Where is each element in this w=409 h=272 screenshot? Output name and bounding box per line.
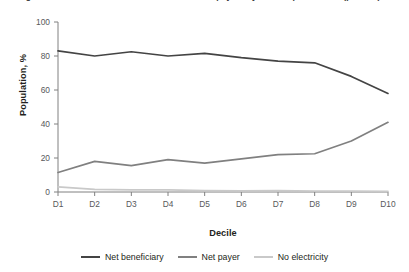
x-tick-label: D10 xyxy=(380,199,396,209)
legend-label: Net payer xyxy=(202,252,240,262)
legend-swatch-icon xyxy=(81,256,100,258)
legend-entry[interactable]: Net beneficiary xyxy=(81,252,164,262)
x-tick-label: D5 xyxy=(199,199,210,209)
data-series-group xyxy=(58,51,388,191)
x-tick-label: D4 xyxy=(163,199,174,209)
x-tick-label: D3 xyxy=(126,199,137,209)
x-tick-label: D9 xyxy=(346,199,357,209)
legend-entry[interactable]: Net payer xyxy=(178,252,240,262)
y-tick-label: 40 xyxy=(41,119,51,129)
plot-area: 020406080100 D1D2D3D4D5D6D7D8D9D10 xyxy=(0,0,409,272)
x-tick-label: D7 xyxy=(273,199,284,209)
chart-legend: Net beneficiaryNet payerNo electricity xyxy=(0,248,409,266)
y-tick-label: 0 xyxy=(45,187,50,197)
legend-swatch-icon xyxy=(178,256,197,258)
y-axis-ticks: 020406080100 xyxy=(36,17,58,197)
chart-figure: Figure: Distribution of net beneficiarie… xyxy=(0,0,409,272)
legend-swatch-icon xyxy=(254,256,273,258)
x-tick-label: D1 xyxy=(53,199,64,209)
legend-label: No electricity xyxy=(278,252,328,262)
y-tick-label: 60 xyxy=(41,85,51,95)
x-axis-ticks: D1D2D3D4D5D6D7D8D9D10 xyxy=(53,192,396,209)
series-line xyxy=(58,51,388,94)
legend-entry[interactable]: No electricity xyxy=(254,252,328,262)
x-tick-label: D2 xyxy=(89,199,100,209)
y-tick-label: 80 xyxy=(41,51,51,61)
x-tick-label: D8 xyxy=(309,199,320,209)
series-line xyxy=(58,187,388,191)
x-tick-label: D6 xyxy=(236,199,247,209)
y-tick-label: 100 xyxy=(36,17,50,27)
series-line xyxy=(58,122,388,172)
y-tick-label: 20 xyxy=(41,153,51,163)
legend-label: Net beneficiary xyxy=(105,252,164,262)
